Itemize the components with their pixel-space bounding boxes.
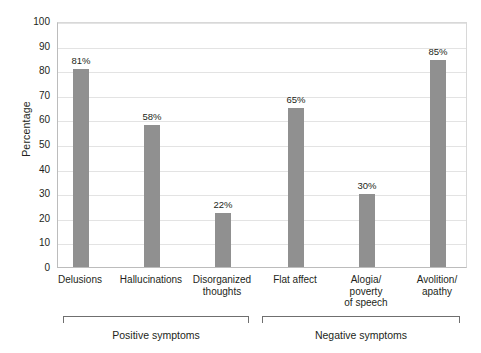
bar-flat-affect[interactable] <box>288 108 304 267</box>
bar-value-disorganized-thoughts: 22% <box>193 200 253 210</box>
gridline-60 <box>58 121 466 122</box>
category-label-line1: Avolition/ <box>393 274 481 286</box>
bar-value-delusions: 81% <box>51 56 111 66</box>
bar-value-hallucinations: 58% <box>122 112 182 122</box>
category-label-avolition: Avolition/ apathy <box>393 274 481 297</box>
y-tick-100: 100 <box>24 17 50 27</box>
y-tick-90: 90 <box>24 42 50 52</box>
gridline-50 <box>58 146 466 147</box>
group-label-negative: Negative symptoms <box>262 329 460 341</box>
bar-delusions[interactable] <box>73 69 89 267</box>
y-tick-10: 10 <box>24 238 50 248</box>
group-label-positive: Positive symptoms <box>63 329 249 341</box>
gridline-70 <box>58 97 466 98</box>
gridline-80 <box>58 72 466 73</box>
bar-alogia[interactable] <box>359 194 375 267</box>
y-tick-60: 60 <box>24 115 50 125</box>
gridline-20 <box>58 220 466 221</box>
gridline-30 <box>58 195 466 196</box>
gridline-10 <box>58 244 466 245</box>
category-label-line2: thoughts <box>178 286 266 298</box>
y-tick-0: 0 <box>24 263 50 273</box>
bar-chart: Percentage 100 90 80 70 60 50 40 30 20 1… <box>0 0 481 353</box>
bar-value-flat-affect: 65% <box>266 95 326 105</box>
y-tick-70: 70 <box>24 91 50 101</box>
y-tick-40: 40 <box>24 165 50 175</box>
group-bracket-positive <box>63 316 249 323</box>
category-label-line3: of speech <box>322 297 410 309</box>
y-tick-20: 20 <box>24 214 50 224</box>
bar-hallucinations[interactable] <box>144 125 160 267</box>
y-tick-50: 50 <box>24 140 50 150</box>
gridline-40 <box>58 171 466 172</box>
y-tick-80: 80 <box>24 66 50 76</box>
y-tick-30: 30 <box>24 189 50 199</box>
y-axis-tick-labels: 100 90 80 70 60 50 40 30 20 10 0 <box>20 0 50 353</box>
group-bracket-negative <box>262 316 460 323</box>
bar-value-avolition: 85% <box>408 47 468 57</box>
bar-disorganized-thoughts[interactable] <box>215 213 231 267</box>
gridline-90 <box>58 48 466 49</box>
gridline-100 <box>58 23 466 24</box>
bar-avolition[interactable] <box>430 60 446 267</box>
category-label-line2: apathy <box>393 286 481 298</box>
plot-area <box>57 22 467 268</box>
bar-value-alogia: 30% <box>337 181 397 191</box>
